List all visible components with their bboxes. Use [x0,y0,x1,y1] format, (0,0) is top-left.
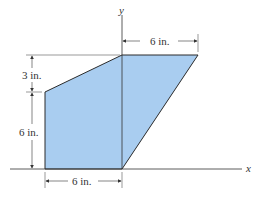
dim-left-lower-height: 6 in. [19,126,39,138]
dim-top-width: 6 in. [150,35,170,47]
composite-area-diagram: x y 6 in. 3 in. 6 in. 6 in. [0,0,261,197]
dim-left-upper-height: 3 in. [22,69,42,81]
x-axis-label: x [245,162,251,174]
shaded-area [45,55,198,169]
dim-bottom-width: 6 in. [72,175,92,187]
y-axis-label: y [118,4,124,16]
